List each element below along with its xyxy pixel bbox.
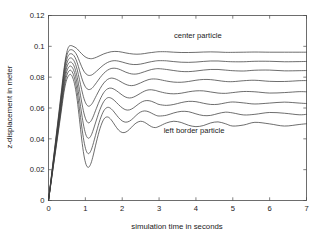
x-tick-label: 3 [157,204,161,213]
chart-figure: 01234567 00.020.040.060.080.10.12 center… [0,0,324,237]
x-axis-title: simulation time in seconds [131,222,223,231]
y-tick-label: 0.1 [34,42,45,51]
x-tick-label: 6 [268,204,272,213]
y-tick-label: 0.04 [30,135,45,144]
x-tick-label: 4 [194,204,198,213]
y-axis-title: z-displacement in meter [5,65,14,148]
annotation-center-particle: center particle [174,31,222,40]
x-tick-label: 1 [83,204,87,213]
y-tick-label: 0 [40,196,44,205]
x-tick-label: 7 [304,204,308,213]
y-tick-label: 0.06 [30,104,45,113]
y-tick-label: 0.02 [30,165,45,174]
line-chart: 01234567 00.020.040.060.080.10.12 center… [0,0,324,237]
x-tick-label: 2 [120,204,124,213]
y-tick-label: 0.08 [30,73,45,82]
annotation-left-border-particle: left border particle [164,126,225,135]
x-tick-label: 5 [231,204,235,213]
x-tick-label: 0 [46,204,50,213]
y-tick-label: 0.12 [30,11,45,20]
